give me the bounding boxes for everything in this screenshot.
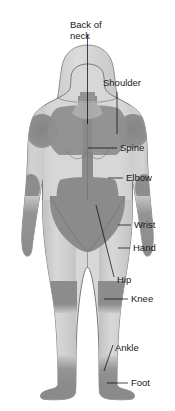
label-hip: Hip [117, 274, 131, 285]
region-ankle-right [97, 356, 125, 386]
label-back-of-neck-line1: Back of [70, 19, 102, 30]
region-forearm-wrist-hand-left [20, 196, 40, 258]
label-wrist: Wrist [134, 219, 156, 230]
label-hand: Hand [133, 242, 156, 253]
label-elbow: Elbow [126, 172, 152, 183]
anatomy-diagram: Back of neck Shoulder Spine Elbow Wrist … [0, 0, 175, 411]
region-ankle-left [50, 356, 78, 386]
label-knee: Knee [131, 293, 153, 304]
body-diagram-svg: Back of neck Shoulder Spine Elbow Wrist … [0, 0, 175, 411]
label-shoulder: Shoulder [103, 77, 141, 88]
label-foot: Foot [131, 377, 150, 388]
label-spine: Spine [120, 142, 144, 153]
region-knee-right [98, 281, 131, 313]
label-ankle: Ankle [115, 342, 139, 353]
label-back-of-neck-line2: neck [70, 30, 90, 41]
region-knee-left [44, 281, 77, 313]
